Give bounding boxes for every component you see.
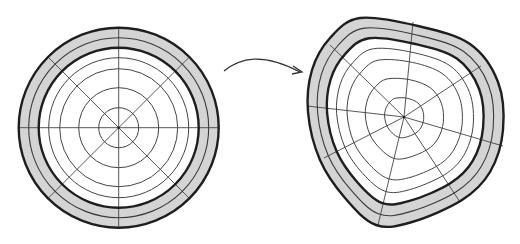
deformed-cross-section <box>307 18 504 227</box>
center-point <box>118 127 120 129</box>
shaded-band <box>308 18 504 227</box>
arrow-curve <box>224 59 300 72</box>
inner-ring <box>347 59 462 179</box>
circular-cross-section <box>19 28 219 228</box>
center-point <box>403 116 405 118</box>
deformation-diagram <box>0 0 520 244</box>
transform-arrow-icon <box>224 59 302 74</box>
diagram-stage <box>0 0 520 244</box>
inner-ring <box>336 48 473 192</box>
